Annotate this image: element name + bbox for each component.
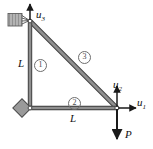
horizontal-length-label: L — [70, 113, 76, 124]
u2-label: u2 — [113, 79, 122, 93]
member-2-number: 2 — [68, 97, 81, 110]
member-1-number: 1 — [34, 59, 47, 72]
u1-label: u1 — [137, 97, 146, 111]
member-3-number: 3 — [78, 51, 91, 64]
load-P-label: P — [125, 129, 132, 140]
top-left-support — [8, 14, 30, 27]
u3-label: u3 — [36, 9, 45, 23]
vertical-length-label: L — [18, 58, 24, 69]
truss-diagram-graphics — [0, 0, 153, 149]
bottom-left-node — [28, 106, 32, 110]
truss-diagram: u3 u2 u1 P L L 1 2 3 — [0, 0, 153, 149]
